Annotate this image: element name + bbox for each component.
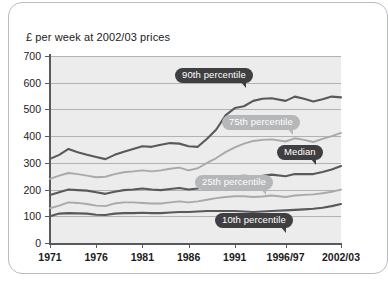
x-axis-tick-label: 2002/03 [322,251,360,263]
x-axis-tick-label: 1991 [223,251,246,263]
chart-title: £ per week at 2002/03 prices [26,31,170,43]
y-axis-tick-label: 200 [23,184,41,196]
callout-tail [240,81,246,88]
plot-area: 0100200300400500600700 19711976198119861… [50,56,341,243]
series-callout: 90th percentile [175,68,253,83]
series-callout-label: 90th percentile [182,69,246,80]
x-axis-tick-label: 1971 [38,251,61,263]
x-axis-tick [286,243,287,248]
callout-tail [287,128,293,135]
y-axis-tick-label: 500 [23,103,41,115]
series-callout-label: 75th percentile [229,116,293,127]
x-axis-tick [96,243,97,248]
x-axis-tick [50,243,51,248]
callout-tail [280,226,286,233]
x-axis-tick [235,243,236,248]
series-callout: 75th percentile [222,115,300,130]
y-axis-tick-label: 600 [23,77,41,89]
x-axis-tick [142,243,143,248]
card-top-divider [9,26,363,27]
y-axis-tick-label: 700 [23,50,41,62]
callout-tail [310,158,316,165]
x-axis-tick [189,243,190,248]
callout-tail [260,188,266,195]
series-callout: 10th percentile [215,213,293,228]
y-axis-tick-label: 100 [23,210,41,222]
x-axis-tick-label: 1976 [85,251,108,263]
series-callout-label: 25th percentile [202,176,266,187]
x-axis-tick-label: 1981 [131,251,154,263]
series-callout: 25th percentile [195,175,273,190]
x-axis-tick [341,243,342,248]
series-callout: Median [277,145,323,160]
y-axis-tick-label: 400 [23,130,41,142]
y-axis-tick-label: 0 [35,237,41,249]
x-axis [49,243,342,245]
series-callout-label: Median [284,146,316,157]
y-axis-tick-label: 300 [23,157,41,169]
series-callout-label: 10th percentile [222,214,286,225]
x-axis-tick-label: 1986 [177,251,200,263]
x-axis-tick-label: 1996/97 [267,251,305,263]
